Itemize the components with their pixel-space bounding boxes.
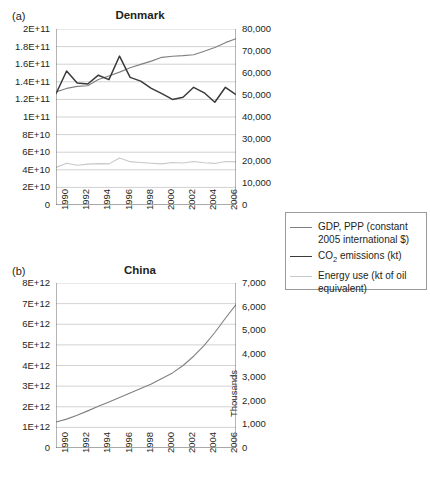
china-plot-area xyxy=(56,283,236,448)
y-axis-tick-label: 4E+10 xyxy=(0,165,50,175)
y-axis-tick-label: 8E+12 xyxy=(0,278,50,288)
y-axis-tick-label: 1.2E+11 xyxy=(0,94,50,104)
y-axis-tick-label: 6E+10 xyxy=(0,147,50,157)
y2-axis-tick-label: 3,000 xyxy=(242,372,266,382)
panel-title-denmark: Denmark xyxy=(55,9,225,21)
y-axis-tick-label: 1.6E+11 xyxy=(0,59,50,69)
y-axis-tick-label: 8E+10 xyxy=(0,130,50,140)
denmark-plot-area xyxy=(56,29,236,205)
series-line-gdp xyxy=(56,305,236,422)
panel-label-a: (a) xyxy=(12,10,25,22)
y2-axis-tick-label: 6,000 xyxy=(242,302,266,312)
y-axis-tick-label: 5E+12 xyxy=(0,340,50,350)
y2-axis-tick-label: 4,000 xyxy=(242,349,266,359)
y2-axis-tick-label: 50,000 xyxy=(242,90,271,100)
legend-item-energy: Energy use (kt of oil equivalent) xyxy=(290,269,420,295)
legend-item-co2: CO2 emissions (kt) xyxy=(290,249,420,266)
panel-label-b: (b) xyxy=(12,265,25,277)
y2-axis-tick-label: 70,000 xyxy=(242,46,271,56)
y2-axis-tick-label: 40,000 xyxy=(242,112,271,122)
y-axis-tick-label: 1.4E+11 xyxy=(0,77,50,87)
y-axis-tick-label: 0 xyxy=(0,443,50,453)
series-line-energy xyxy=(56,158,236,167)
y-axis-tick-label: 2E+10 xyxy=(0,182,50,192)
y2-axis-tick-label: 2,000 xyxy=(242,396,266,406)
y2-axis-tick-label: 60,000 xyxy=(242,68,271,78)
y-axis-tick-label: 6E+12 xyxy=(0,319,50,329)
y-axis-tick-label: 4E+12 xyxy=(0,361,50,371)
y2-axis-tick-label: 30,000 xyxy=(242,134,271,144)
panel-title-china: China xyxy=(55,264,225,276)
y-axis-tick-label: 1E+11 xyxy=(0,112,50,122)
legend-swatch-energy xyxy=(290,276,312,277)
y2-axis-tick-label: 5,000 xyxy=(242,325,266,335)
y-axis-tick-label: 7E+12 xyxy=(0,299,50,309)
y2-axis-tick-label: 1,000 xyxy=(242,419,266,429)
panel-denmark: (a) Denmark 02E+104E+106E+108E+101E+111.… xyxy=(0,0,250,252)
legend-label-co2: CO2 emissions (kt) xyxy=(318,249,402,266)
legend-label-gdp: GDP, PPP (constant 2005 international $) xyxy=(318,220,420,246)
legend-swatch-co2 xyxy=(290,256,312,257)
y-axis-tick-label: 3E+12 xyxy=(0,381,50,391)
y2-axis-tick-label: 0 xyxy=(242,200,247,210)
legend-swatch-gdp xyxy=(290,227,312,228)
y-axis-tick-label: 1E+12 xyxy=(0,422,50,432)
y-axis-tick-label: 0 xyxy=(0,200,50,210)
y2-axis-tick-label: 20,000 xyxy=(242,156,271,166)
y2-axis-tick-label: 0 xyxy=(242,443,247,453)
legend-label-energy: Energy use (kt of oil equivalent) xyxy=(318,269,420,295)
y-axis-tick-label: 1.8E+11 xyxy=(0,42,50,52)
legend: GDP, PPP (constant 2005 international $)… xyxy=(285,212,427,290)
legend-item-gdp: GDP, PPP (constant 2005 international $) xyxy=(290,220,420,246)
y-axis-tick-label: 2E+11 xyxy=(0,24,50,34)
y2-axis-tick-label: 10,000 xyxy=(242,178,271,188)
y2-axis-tick-label: 80,000 xyxy=(242,24,271,34)
panel-china: (b) China 01E+122E+123E+124E+125E+126E+1… xyxy=(0,255,250,497)
y2-axis-tick-label: 7,000 xyxy=(242,278,266,288)
y-axis-tick-label: 2E+12 xyxy=(0,402,50,412)
